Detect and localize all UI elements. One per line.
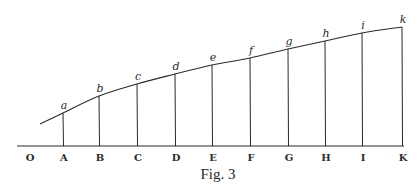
ordinate-line-c <box>137 84 138 146</box>
curve-label-k: k <box>400 13 407 26</box>
curve-point-labels: abcdefghik <box>61 13 407 112</box>
curve-label-h: h <box>322 27 329 40</box>
ordinate-line-d <box>175 74 176 146</box>
ordinate-line-a <box>63 113 64 146</box>
axis-label-G: G <box>285 152 294 163</box>
ordinate-line-b <box>99 96 100 146</box>
curve-label-e: e <box>210 51 217 64</box>
figure-3-diagram: O ABCDEFGHIK abcdefghik Fig. 3 <box>0 0 418 186</box>
ordinate-line-k <box>402 27 403 146</box>
axis-label-A: A <box>59 152 68 163</box>
ordinate-line-e <box>212 65 213 146</box>
ordinate-line-i <box>362 33 363 146</box>
ordinate-line-f <box>250 58 251 146</box>
axis-label-B: B <box>96 152 104 163</box>
curve-label-d: d <box>172 60 179 73</box>
curve-label-b: b <box>96 82 103 95</box>
axis-label-E: E <box>209 152 217 163</box>
axis-label-H: H <box>321 152 330 163</box>
axis-label-C: C <box>134 152 142 163</box>
ordinate-curve-figure: O ABCDEFGHIK abcdefghik Fig. 3 <box>0 0 418 186</box>
curve-label-f: f <box>248 44 255 57</box>
curve-label-i: i <box>361 19 365 32</box>
curve-label-c: c <box>135 70 141 83</box>
ordinate-line-g <box>288 49 289 146</box>
axis-label-I: I <box>361 152 366 163</box>
curve-abcdefghik <box>40 27 402 124</box>
axis-label-D: D <box>172 152 181 163</box>
axis-label-K: K <box>399 152 408 163</box>
axis-labels: O ABCDEFGHIK <box>26 152 408 163</box>
ordinate-line-h <box>325 41 326 146</box>
curve-label-a: a <box>61 99 68 112</box>
curve-label-g: g <box>285 35 292 48</box>
origin-label-O: O <box>26 152 35 163</box>
ordinate-lines <box>63 27 403 146</box>
axis-label-F: F <box>247 152 254 163</box>
figure-caption: Fig. 3 <box>200 166 235 182</box>
